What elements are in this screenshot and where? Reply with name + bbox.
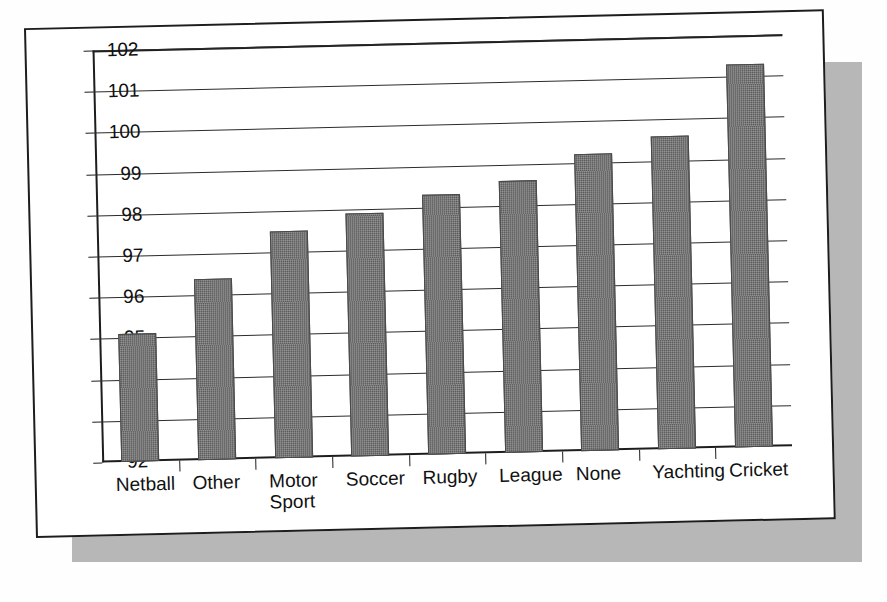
chart-card-wrapper: 9293949596979899100101102 NetballOtherMo… [24,9,836,538]
bar [269,231,313,458]
gridlines [93,34,783,50]
bar [574,154,619,451]
x-axis-tick [639,450,640,461]
x-axis-tick [409,455,410,466]
bar [498,180,543,453]
x-axis-tick [179,461,180,472]
gridline [94,75,784,92]
x-axis-tick-label: Netball [116,473,176,496]
x-axis-tick-label: Motor Sport [269,469,319,513]
x-axis-tick [332,457,333,468]
x-axis-tick-label: Soccer [346,467,406,490]
x-axis-tick [562,452,563,463]
x-axis-tick-label: None [576,462,622,484]
x-axis-tick [715,448,716,459]
x-axis-tick [485,453,486,464]
x-axis-tick [256,459,257,470]
bar [118,333,159,462]
y-axis-tick-label: 98 [121,204,143,223]
x-axis-tick-label: Rugby [422,466,477,489]
chart-card: 9293949596979899100101102 NetballOtherMo… [24,9,836,538]
gridline [94,117,784,134]
bar [651,135,697,449]
x-axis-tick-label: Cricket [729,458,789,481]
plot-area: 9293949596979899100101102 NetballOtherMo… [93,34,793,462]
y-axis-tick-label: 99 [120,163,142,182]
x-axis-tick-label: Yachting [652,460,725,483]
chart-page: 9293949596979899100101102 NetballOtherMo… [0,0,887,602]
bar [346,213,390,457]
gridline [93,34,783,51]
y-axis-tick-label: 100 [109,122,141,142]
x-axis-tick-label: Other [192,471,240,493]
x-axis-tick-label: League [499,464,563,487]
y-axis-tick-label: 97 [122,245,144,264]
y-axis-tick-label: 101 [108,81,140,101]
bar [726,64,773,448]
bar [194,278,237,460]
y-axis-tick-label: 102 [107,39,139,59]
y-axis-tick-label: 96 [123,287,145,306]
bar [422,194,466,454]
